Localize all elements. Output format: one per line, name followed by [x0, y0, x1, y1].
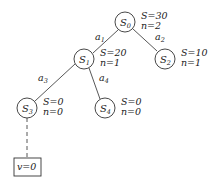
edge-label-a1: a1	[95, 31, 105, 44]
node-s4: S4 S=0 n=0	[95, 96, 142, 118]
node-s4-visits: n=0	[121, 106, 141, 117]
edge-label-a2: a2	[155, 31, 165, 44]
node-s2-visits: n=1	[181, 57, 201, 68]
node-s1: S1 S=20 n=1	[74, 47, 127, 69]
edge-s0-s2	[133, 29, 157, 51]
node-s1-visits: n=1	[100, 57, 120, 68]
node-s3-visits: n=0	[43, 106, 63, 117]
rollout-leaf: v=0	[14, 158, 41, 176]
rollout-value: v=0	[17, 161, 36, 172]
node-s0: S0 S=30 n=2	[115, 10, 168, 32]
node-s0-visits: n=2	[141, 20, 161, 31]
node-s3: S3 S=0 n=0	[17, 96, 64, 118]
node-s2: S2 S=10 n=1	[155, 47, 208, 69]
edge-label-a3: a3	[38, 72, 48, 85]
tree-diagram: a1 a2 a3 a4 S0 S=30 n=2 S1 S=20 n=1 S2 S…	[0, 0, 214, 188]
edge-label-a4: a4	[99, 72, 109, 85]
